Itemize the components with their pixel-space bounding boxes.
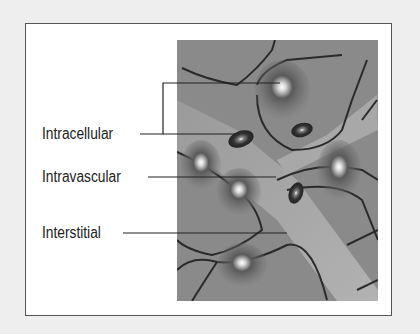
label-interstitial: Interstitial <box>42 225 101 241</box>
label-intracellular: Intracellular <box>42 126 113 142</box>
label-intravascular: Intravascular <box>42 169 121 185</box>
cell-illustration <box>177 40 378 301</box>
